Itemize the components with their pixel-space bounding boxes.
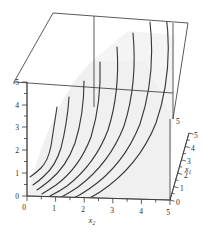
x1tick-1: 1 xyxy=(180,184,184,193)
plot-canvas: 0 1 2 3 4 5 0 1 2 3 4 5 x2 xyxy=(0,0,204,232)
x2-label-subscript: 2 xyxy=(92,220,95,226)
x1-axis-label: x1 xyxy=(184,165,192,175)
svg-text:x1: x1 xyxy=(184,165,192,175)
x2tick-5: 5 xyxy=(166,208,170,217)
vtick-5: 5 xyxy=(15,78,19,87)
svg-text:x2: x2 xyxy=(88,216,96,226)
surface-fill xyxy=(27,31,175,200)
x2-axis-tick-labels: 0 1 2 3 4 5 xyxy=(22,203,170,217)
contour-plot-figure: 0 1 2 3 4 5 0 1 2 3 4 5 x2 xyxy=(0,0,204,232)
vertical-axis xyxy=(22,82,27,196)
x1tick-5: 5 xyxy=(194,131,198,140)
x1-top-tick-5: 5 xyxy=(176,117,180,126)
x1tick-0: 0 xyxy=(176,198,180,207)
x1-label-subscript: 1 xyxy=(189,169,192,175)
x2tick-3: 3 xyxy=(110,206,114,215)
x2tick-2: 2 xyxy=(81,205,85,214)
x2tick-4: 4 xyxy=(139,207,143,216)
vtick-3: 3 xyxy=(15,123,19,132)
x1tick-4: 4 xyxy=(191,144,195,153)
vertical-axis-tick-labels: 0 1 2 3 4 5 xyxy=(15,78,19,201)
x2tick-1: 1 xyxy=(52,204,56,213)
vtick-0: 0 xyxy=(15,192,19,201)
vtick-2: 2 xyxy=(15,146,19,155)
vtick-4: 4 xyxy=(15,101,19,110)
x2tick-0: 0 xyxy=(22,203,26,212)
vtick-1: 1 xyxy=(15,169,19,178)
x2-axis-label: x2 xyxy=(88,216,96,226)
